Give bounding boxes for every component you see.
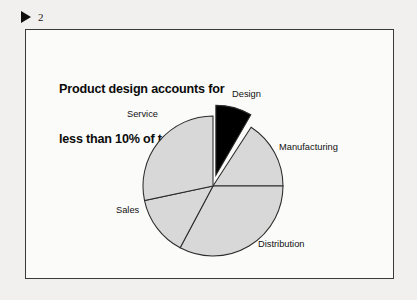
slide-canvas: 2 Product design accounts for less than … [0,0,417,300]
pie-chart: DesignManufacturingDistributionSalesServ… [26,30,395,280]
pie-label-design: Design [232,90,261,99]
pie-chart-svg [26,30,395,280]
slide-number: 2 [38,12,44,23]
pie-label-distribution: Distribution [258,240,305,249]
pie-label-sales: Sales [116,206,139,215]
pie-label-manufacturing: Manufacturing [279,143,338,152]
slide-frame: Product design accounts for less than 10… [25,29,394,279]
play-triangle-icon [21,11,31,23]
pie-label-service: Service [127,110,158,119]
pie-slice-service[interactable] [143,116,213,201]
slide-marker: 2 [21,10,44,24]
